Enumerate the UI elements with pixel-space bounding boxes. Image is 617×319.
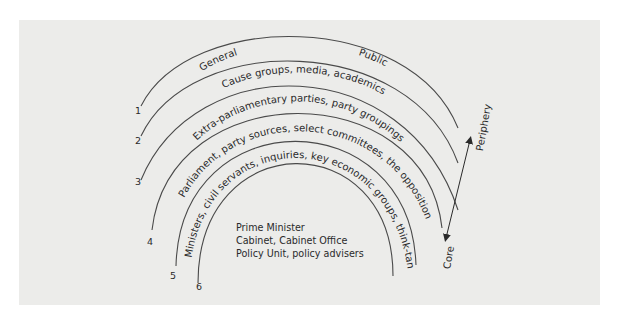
ring-1-number: 1 [135,105,141,116]
core-line-prime-minister: Prime Minister [236,221,364,234]
concentric-arcs-diagram: General Public Cause groups, media, acad… [0,0,617,319]
ring-3-number: 3 [135,176,141,187]
periphery-label: Periphery [474,103,493,152]
core-label: Core [441,245,456,270]
ring-3-label: Extra-parliamentary parties, party group… [191,92,407,143]
ring-2-arc [141,61,458,163]
ring-5-number: 5 [170,270,176,281]
ring-1-label-right: Public [358,47,390,69]
core-line-policy-unit: Policy Unit, policy advisers [236,247,364,260]
ring-6-number: 6 [196,281,202,292]
ring-2-number: 2 [135,135,141,146]
ring-1-arc [141,37,458,128]
core-institutions: Prime Minister Cabinet, Cabinet Office P… [236,221,364,260]
ring-4-number: 4 [147,236,153,247]
core-line-cabinet: Cabinet, Cabinet Office [236,234,364,247]
ring-1-label-left: General [197,46,238,73]
